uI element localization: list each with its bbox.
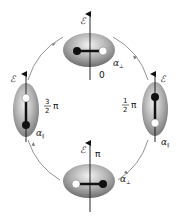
state-left: ℰ 3 2 π α∥ [10, 74, 59, 142]
arc-left-top [28, 37, 63, 80]
open-dot [99, 47, 107, 55]
polarizability-label: α⊥ [120, 174, 131, 185]
phase-denominator: 2 [123, 106, 127, 114]
filled-dot [99, 180, 107, 188]
phase-numerator: 3 [45, 98, 49, 106]
polarizability-label: α∥ [36, 128, 44, 139]
state-bottom: ℰ π α⊥ [63, 143, 131, 212]
arrow-icon [32, 142, 36, 146]
phase-denominator: 2 [45, 107, 49, 115]
axis-label: ℰ [80, 16, 87, 26]
state-top: ℰ 0 α⊥ [63, 14, 124, 80]
filled-dot [151, 93, 159, 101]
axis-label: ℰ [160, 74, 167, 84]
polarizability-label: α⊥ [113, 58, 124, 69]
open-dot [72, 180, 80, 188]
filled-dot [22, 121, 30, 129]
phase-symbol: π [53, 101, 59, 111]
arc-bottom-left [28, 140, 60, 180]
axis-label: ℰ [80, 145, 87, 155]
state-right: ℰ 1 2 π α∥ [122, 74, 169, 148]
phase-symbol: π [131, 100, 137, 110]
diagram-canvas: ℰ 0 α⊥ ℰ 1 2 π α∥ ℰ π α⊥ ℰ 3 2 [0, 0, 176, 220]
filled-dot [73, 47, 81, 55]
phase-label: π [95, 149, 101, 159]
polarizability-label: α∥ [161, 137, 169, 148]
phase-label: 0 [99, 70, 105, 80]
ellipsoid [63, 164, 115, 198]
open-dot [151, 119, 159, 127]
axis-label: ℰ [10, 74, 17, 84]
open-dot [22, 94, 30, 102]
phase-numerator: 1 [123, 97, 127, 105]
